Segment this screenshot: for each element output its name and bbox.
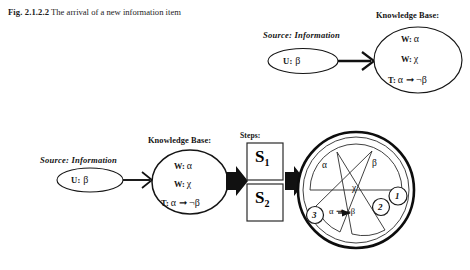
result-marker-3-label: 3 — [312, 210, 317, 220]
bottom-kb-title: Knowledge Base: — [148, 136, 211, 145]
bottom-kb-line-3: T: α ➞ ¬β — [161, 197, 200, 208]
step-label-2-sub: 2 — [264, 198, 269, 209]
top-kb-line-3-symbol: α ➞ ¬β — [398, 74, 427, 85]
result-sector-alpha-label: α — [322, 160, 327, 170]
bottom-kb-line-2-prefix: W: — [174, 180, 185, 189]
result-sector-implication-label: α ➞ ¬β — [329, 206, 355, 216]
top-source-prefix: U: — [283, 56, 293, 66]
step-label-1-sub: 1 — [264, 157, 269, 168]
bottom-kb-line-3-symbol: α ➞ ¬β — [171, 197, 200, 208]
top-kb-line-1-symbol: α — [414, 33, 419, 44]
bottom-source-prefix: U: — [71, 175, 81, 185]
result-marker-2-label: 2 — [378, 202, 383, 212]
bottom-kb-line-1: W: α — [174, 160, 192, 171]
top-kb-line-2-symbol: χ — [414, 53, 418, 64]
steps-title: Steps: — [240, 131, 260, 140]
figure-caption-number: Fig. 2.1.2.2 — [8, 7, 49, 17]
figure-caption-text: The arrival of a new information item — [51, 7, 181, 17]
bottom-source-title: Source: Information — [40, 155, 117, 165]
top-kb-line-3: T: α ➞ ¬β — [388, 74, 427, 85]
bottom-source-ellipse — [57, 168, 123, 192]
bottom-source-symbol: β — [83, 174, 88, 185]
result-sector-beta-label: β — [372, 158, 377, 168]
bottom-kb-line-2: W: χ — [174, 178, 191, 189]
step-label-1: S1 — [255, 147, 269, 168]
result-sector-chi-label: χ — [352, 183, 356, 193]
top-source-ellipse-label: U: β — [283, 55, 301, 66]
figure-root: Fig. 2.1.2.2 The arrival of a new inform… — [0, 0, 470, 270]
result-marker-1-label: 1 — [395, 191, 400, 201]
figure-caption: Fig. 2.1.2.2 The arrival of a new inform… — [8, 6, 188, 18]
top-source-symbol: β — [295, 55, 300, 66]
step-label-2: S2 — [255, 188, 269, 209]
fat-arrow-kb-to-steps — [226, 166, 248, 196]
top-kb-line-2: W: χ — [401, 53, 418, 64]
bottom-arrow-source-to-kb — [123, 172, 152, 188]
top-arrow-source-to-kb — [338, 52, 374, 70]
top-kb-line-3-prefix: T: — [388, 76, 396, 85]
top-kb-line-1-prefix: W: — [401, 35, 412, 44]
bottom-source-ellipse-label: U: β — [71, 174, 89, 185]
figure-vector-layer — [0, 0, 470, 270]
top-kb-line-1: W: α — [401, 33, 419, 44]
top-source-title: Source: Information — [263, 30, 340, 40]
bottom-kb-line-1-symbol: α — [187, 160, 192, 171]
top-source-ellipse — [268, 49, 338, 74]
top-kb-title: Knowledge Base: — [376, 11, 439, 20]
bottom-kb-line-1-prefix: W: — [174, 162, 185, 171]
bottom-kb-line-3-prefix: T: — [161, 199, 169, 208]
bottom-kb-line-2-symbol: χ — [187, 178, 191, 189]
top-kb-line-2-prefix: W: — [401, 55, 412, 64]
